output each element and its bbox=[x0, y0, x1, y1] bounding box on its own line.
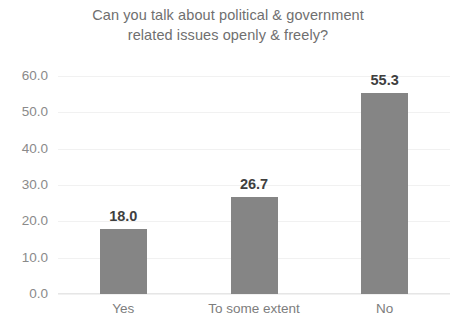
y-axis-tick-label: 20.0 bbox=[0, 214, 48, 228]
chart-title-line-1: Can you talk about political & governmen… bbox=[0, 5, 456, 25]
bar[interactable] bbox=[100, 229, 147, 294]
x-axis-category-label: To some extent bbox=[189, 300, 320, 318]
plot-area: 18.026.755.3 bbox=[58, 76, 450, 294]
chart-title-line-2: related issues openly & freely? bbox=[0, 25, 456, 45]
bar[interactable] bbox=[231, 197, 278, 294]
gridline bbox=[58, 294, 450, 295]
x-axis-category-label: No bbox=[319, 300, 450, 318]
y-axis-tick-label: 30.0 bbox=[0, 178, 48, 192]
bar-data-label: 26.7 bbox=[214, 176, 294, 192]
bar-chart: Can you talk about political & governmen… bbox=[0, 0, 456, 330]
y-axis-tick-label: 60.0 bbox=[0, 69, 48, 83]
x-axis-category-labels: YesTo some extentNo bbox=[58, 300, 450, 326]
y-axis-tick-label: 0.0 bbox=[0, 287, 48, 301]
x-axis-category-label: Yes bbox=[58, 300, 189, 318]
bar-data-label: 18.0 bbox=[83, 208, 163, 224]
bar-data-label: 55.3 bbox=[345, 72, 425, 88]
y-axis-tick-label: 50.0 bbox=[0, 105, 48, 119]
y-axis-tick-label: 40.0 bbox=[0, 142, 48, 156]
y-axis-tick-label: 10.0 bbox=[0, 251, 48, 265]
bar[interactable] bbox=[361, 93, 408, 294]
chart-title: Can you talk about political & governmen… bbox=[0, 5, 456, 45]
